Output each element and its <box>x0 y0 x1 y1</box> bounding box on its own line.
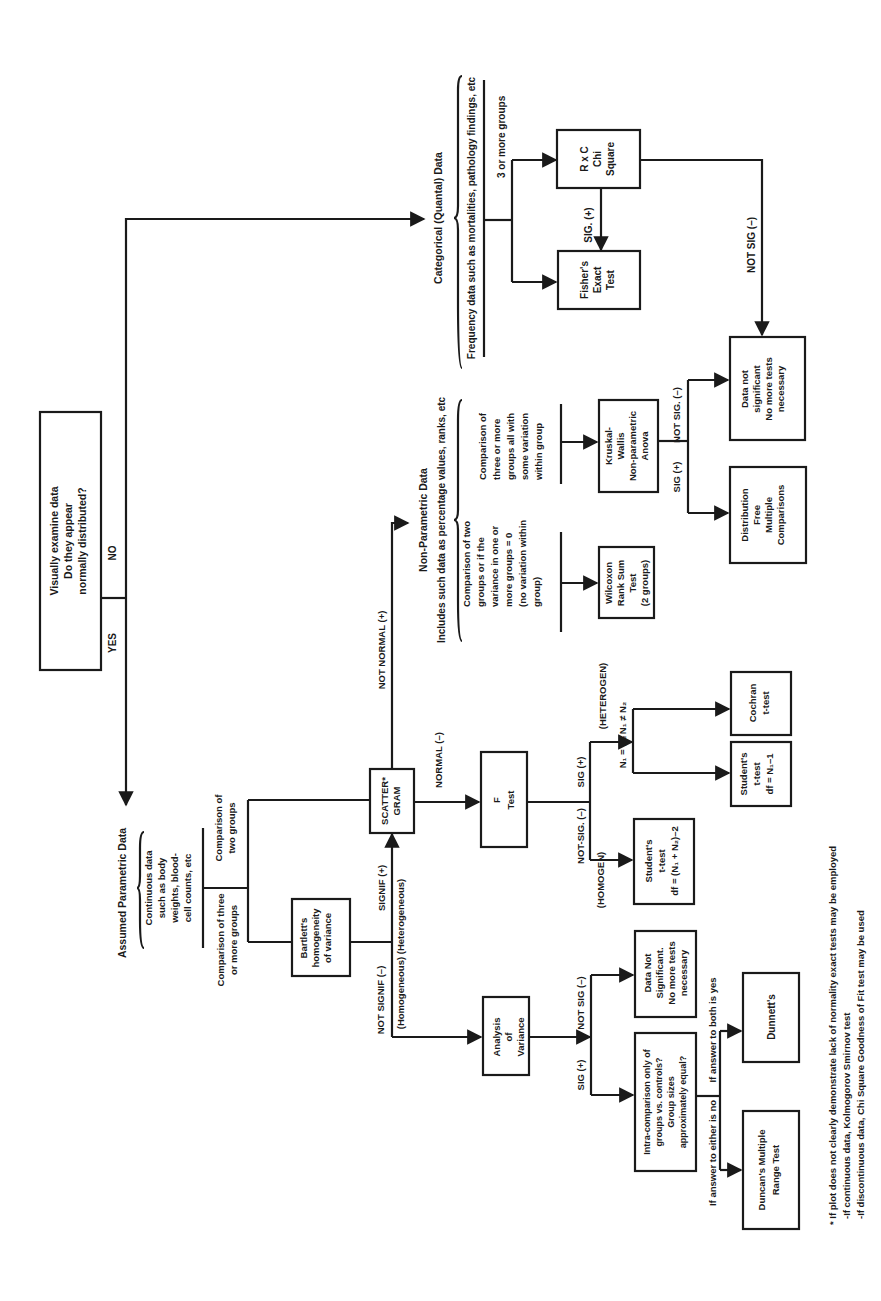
svg-text:(no variation within: (no variation within <box>517 520 528 607</box>
three-or-more-groups-label: 3 or more groups <box>496 95 507 178</box>
svg-text:Variance: Variance <box>515 1017 526 1056</box>
fisher-line-2: Exact <box>592 266 603 293</box>
homogen-label: (HOMOGEN) <box>595 852 606 908</box>
svg-text:Test: Test <box>505 790 516 810</box>
svg-text:three or more: three or more <box>491 419 502 480</box>
categorical-brace <box>454 76 462 368</box>
svg-text:Rank Sum: Rank Sum <box>615 560 626 606</box>
svg-text:Anova: Anova <box>639 431 650 461</box>
svg-text:Comparison of: Comparison of <box>477 412 488 480</box>
svg-text:GRAM: GRAM <box>391 786 402 815</box>
svg-text:t-test: t-test <box>751 762 762 786</box>
not-sig-arrow-rxc-to-data-not-sig <box>640 160 762 335</box>
f-test-box <box>481 752 527 847</box>
categorical-section: Categorical (Quantal) Data Frequency dat… <box>432 76 762 368</box>
anova-sig-label: SIG (+) <box>575 1060 586 1091</box>
no-label: NO <box>107 545 118 560</box>
svg-text:Comparison of: Comparison of <box>213 794 224 862</box>
nonparametric-two-groups-text: Comparison of two groups or if the varia… <box>461 520 542 607</box>
svg-text:group): group) <box>531 577 542 607</box>
svg-text:significant: significant <box>751 364 762 412</box>
svg-text:SCATTER*: SCATTER* <box>379 777 390 825</box>
categorical-not-sig-label: NOT SIG (–) <box>746 217 757 273</box>
signif-label: SIGNIF (+) <box>376 865 387 911</box>
svg-text:necessary: necessary <box>678 949 689 996</box>
homogeneous-heterogeneous-label: (Homogeneous) (Heterogeneous) <box>395 879 406 1029</box>
svg-text:two groups: two groups <box>226 802 237 853</box>
n-equal-label: N₁ = N₂ <box>617 736 628 769</box>
f-not-sig-label: NOT-SIG. (–) <box>575 808 586 864</box>
nonparametric-three-groups-text: Comparison of three or more groups all w… <box>477 412 544 481</box>
svg-text:df = (N₁ + N₂)–2: df = (N₁ + N₂)–2 <box>669 826 680 895</box>
svg-text:some variation: some variation <box>519 413 530 480</box>
svg-text:Continuous data: Continuous data <box>143 850 154 926</box>
np-not-sig-label: NOT SIG. (–) <box>671 387 682 443</box>
nonparametric-subtitle: Includes such data as percentage values,… <box>436 396 447 643</box>
svg-text:t-test: t-test <box>656 849 667 873</box>
svg-text:within group: within group <box>533 423 544 481</box>
footnote-1: * If plot does not clearly demonstrate l… <box>827 846 838 1225</box>
svg-text:(2 groups): (2 groups) <box>639 560 650 606</box>
svg-text:groups all with: groups all with <box>505 413 516 480</box>
n-unequal-label: N₁ ≠ N₂ <box>617 702 628 734</box>
svg-text:No more tests: No more tests <box>763 357 774 420</box>
rxc-line-1: R x C <box>579 146 590 172</box>
np-sig-label: SIG (+) <box>671 462 682 493</box>
footnote-2: -If continuous data, Kolmogorov Smirnov … <box>841 1012 852 1219</box>
svg-text:Free: Free <box>751 505 762 525</box>
start-line-3: normally distributed? <box>76 487 88 594</box>
svg-text:more groups = 0: more groups = 0 <box>503 533 514 607</box>
svg-text:weights, blood-: weights, blood- <box>169 853 180 924</box>
svg-text:homogeneity: homogeneity <box>310 908 321 968</box>
svg-text:Comparison of two: Comparison of two <box>461 521 472 607</box>
f-sig-label: SIG (+) <box>575 757 586 788</box>
svg-text:Bartlett's: Bartlett's <box>298 918 309 959</box>
svg-text:F: F <box>491 797 502 803</box>
svg-text:cell counts, etc: cell counts, etc <box>182 854 193 923</box>
svg-text:df = N₁–1: df = N₁–1 <box>764 753 775 795</box>
svg-text:Duncan's Multiple: Duncan's Multiple <box>756 1130 767 1211</box>
svg-text:of: of <box>503 1032 514 1042</box>
start-node: Visually examine data Do they appear nor… <box>40 412 126 670</box>
normal-label: NORMAL (–) <box>433 732 444 788</box>
heterogen-label: (HETEROGEN) <box>597 663 608 730</box>
svg-text:groups vs. controls?: groups vs. controls? <box>654 1057 664 1146</box>
svg-text:t-test: t-test <box>760 691 771 715</box>
fisher-line-1: Fisher's <box>579 261 590 299</box>
answer-no-label: If answer to either is no <box>707 1100 718 1206</box>
parametric-description: Continuous data such as body weights, bl… <box>143 850 193 926</box>
svg-text:variance in one or: variance in one or <box>489 525 500 607</box>
svg-text:Cochran: Cochran <box>747 684 758 723</box>
fisher-line-3: Test <box>605 269 616 289</box>
svg-text:Group sizes: Group sizes <box>666 1076 676 1128</box>
svg-text:approximately equal?: approximately equal? <box>678 1056 688 1149</box>
answer-yes-label: If answer to both is yes <box>707 977 718 1082</box>
start-line-1: Visually examine data <box>48 486 60 595</box>
footnotes: * If plot does not clearly demonstrate l… <box>827 846 866 1225</box>
svg-text:Dunnett's: Dunnett's <box>766 994 777 1040</box>
svg-text:of variance: of variance <box>322 913 333 963</box>
svg-text:Data Not: Data Not <box>642 953 653 993</box>
parametric-section: Assumed Parametric Data Continuous data … <box>116 523 799 1229</box>
nonparametric-section: Non-Parametric Data Includes such data a… <box>417 337 806 643</box>
svg-text:Analysis: Analysis <box>491 1017 502 1056</box>
categorical-title: Categorical (Quantal) Data <box>432 152 444 284</box>
yes-label: YES <box>107 633 118 653</box>
svg-text:Student's: Student's <box>738 753 749 796</box>
not-normal-arrow-to-nonparametric <box>392 523 408 769</box>
not-signif-label: NOT SIGNIF (–) <box>375 966 386 1035</box>
svg-text:groups or if the: groups or if the <box>475 537 486 607</box>
svg-text:Non-parametric: Non-parametric <box>627 411 638 481</box>
svg-text:Wallis: Wallis <box>615 432 626 459</box>
svg-text:Range Test: Range Test <box>770 1144 781 1195</box>
svg-text:Distribution: Distribution <box>739 488 750 541</box>
svg-text:Data not: Data not <box>739 369 750 408</box>
anova-not-sig-label: NOT SIG (–) <box>575 976 586 1029</box>
svg-text:Comparisons: Comparisons <box>775 485 786 546</box>
svg-text:or more groups: or more groups <box>228 905 239 975</box>
two-groups-text: Comparison of two groups <box>213 794 237 862</box>
svg-text:No more tests: No more tests <box>666 941 677 1004</box>
categorical-sig-label: SIG. (+) <box>583 207 594 242</box>
footnote-3: -If discontinuous data, Chi Square Goodn… <box>855 910 866 1219</box>
svg-text:such as body: such as body <box>156 857 167 918</box>
